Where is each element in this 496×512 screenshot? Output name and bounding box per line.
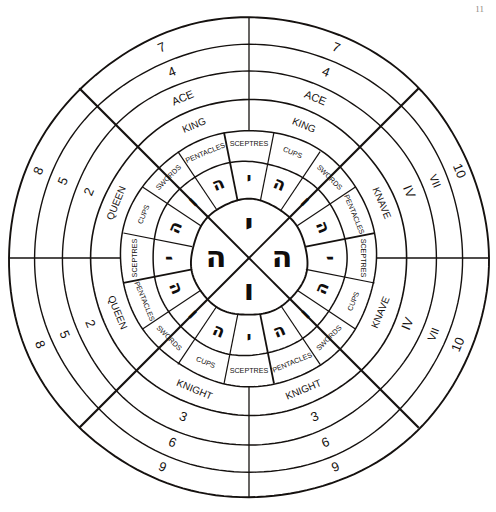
number-top-r1-0: 4 — [166, 63, 178, 80]
center-letter-heh-1: ה — [272, 239, 293, 274]
number-bottom-r1-0: 6 — [319, 434, 331, 451]
letter-ring-cell-2: ו — [297, 192, 315, 210]
number-left-r1-0: 5 — [56, 328, 73, 340]
letter-ring-cell-7: ה — [270, 319, 288, 342]
letter-ring-cell-14: ו — [183, 192, 201, 210]
number-right-r0-1: IV — [398, 315, 417, 332]
number-left-r0-0: 2 — [82, 317, 99, 329]
letter-ring-cell-0: י — [246, 168, 251, 188]
number-bottom-r0-0: 3 — [308, 408, 320, 425]
number-bottom-r2-1: 9 — [156, 458, 168, 475]
letter-ring-cell-9: ה — [210, 319, 228, 342]
number-left-r2-0: 8 — [32, 338, 49, 350]
court-label-knight-0: KNIGHT — [284, 377, 323, 402]
number-right-r2-0: 10 — [450, 161, 469, 180]
number-left-r0-1: 2 — [80, 185, 97, 197]
suit-label-cups-13: CUPS — [136, 203, 152, 225]
letter-ring-cell-13: ה — [163, 218, 186, 236]
suit-label-pentacles-7: PENTACLES — [271, 350, 314, 375]
letter-ring-cell-8: י — [246, 327, 251, 347]
number-bottom-r1-1: 6 — [166, 434, 178, 451]
center-letter-heh-final-3: ה — [206, 239, 227, 274]
number-right-r2-1: 10 — [448, 335, 467, 354]
letter-ring-cell-11: ה — [165, 279, 188, 297]
tarot-wheel-diagram: יהוהיהוהיהוהיהוהיהוהSCEPTRESCUPSSWORDSPE… — [0, 0, 496, 512]
number-top-r1-1: 4 — [320, 63, 332, 80]
suit-label-sceptres-12: SCEPTRES — [130, 238, 139, 277]
letter-ring-cell-5: ה — [310, 279, 333, 297]
number-bottom-r0-1: 3 — [177, 408, 189, 425]
suit-label-cups-1: CUPS — [282, 145, 304, 161]
letter-ring-cell-10: ו — [184, 304, 202, 322]
suit-label-pentacles-11: PENTACLES — [132, 280, 157, 323]
letter-ring-cell-1: ה — [271, 172, 289, 195]
number-left-r2-1: 8 — [30, 165, 47, 177]
letter-ring-cell-15: ה — [209, 172, 227, 195]
letter-ring-cell-4: י — [320, 255, 340, 260]
court-label-knave-1: KNAVE — [369, 295, 392, 330]
court-label-knight-1: KNIGHT — [175, 377, 214, 402]
number-left-r1-1: 5 — [54, 175, 71, 187]
number-top-r2-0: 7 — [156, 39, 168, 56]
suit-label-sceptres-0: SCEPTRES — [230, 139, 269, 148]
suit-label-sceptres-8: SCEPTRES — [230, 366, 269, 375]
letter-ring-cell-6: ו — [295, 304, 313, 322]
radial-dividers — [9, 18, 489, 498]
letter-ring-cell-3: ה — [312, 218, 335, 236]
court-label-knave-0: KNAVE — [370, 186, 393, 221]
court-label-queen-0: QUEEN — [106, 294, 130, 331]
suit-label-cups-5: CUPS — [345, 290, 361, 312]
center-letter-vav-2: ו — [244, 272, 254, 307]
court-label-king-1: KING — [291, 115, 318, 135]
letter-ring-cell-12: י — [159, 255, 179, 260]
suit-label-cups-9: CUPS — [195, 354, 217, 370]
number-right-r0-0: IV — [400, 183, 419, 200]
suit-label-sceptres-4: SCEPTRES — [359, 239, 368, 278]
wheel-svg: יהוהיהוהיהוהיהוהיהוהSCEPTRESCUPSSWORDSPE… — [0, 0, 496, 512]
number-top-r2-1: 7 — [330, 39, 342, 56]
number-bottom-r2-0: 9 — [329, 458, 341, 475]
number-top-r0-1: ACE — [303, 88, 328, 108]
number-right-r1-1: VII — [425, 326, 441, 343]
court-label-king-0: KING — [181, 115, 208, 135]
number-right-r1-0: VII — [427, 172, 443, 189]
number-top-r0-0: ACE — [170, 88, 195, 108]
center-letter-yod-0: י — [245, 206, 254, 241]
page-number-mark: 11 — [475, 4, 484, 14]
